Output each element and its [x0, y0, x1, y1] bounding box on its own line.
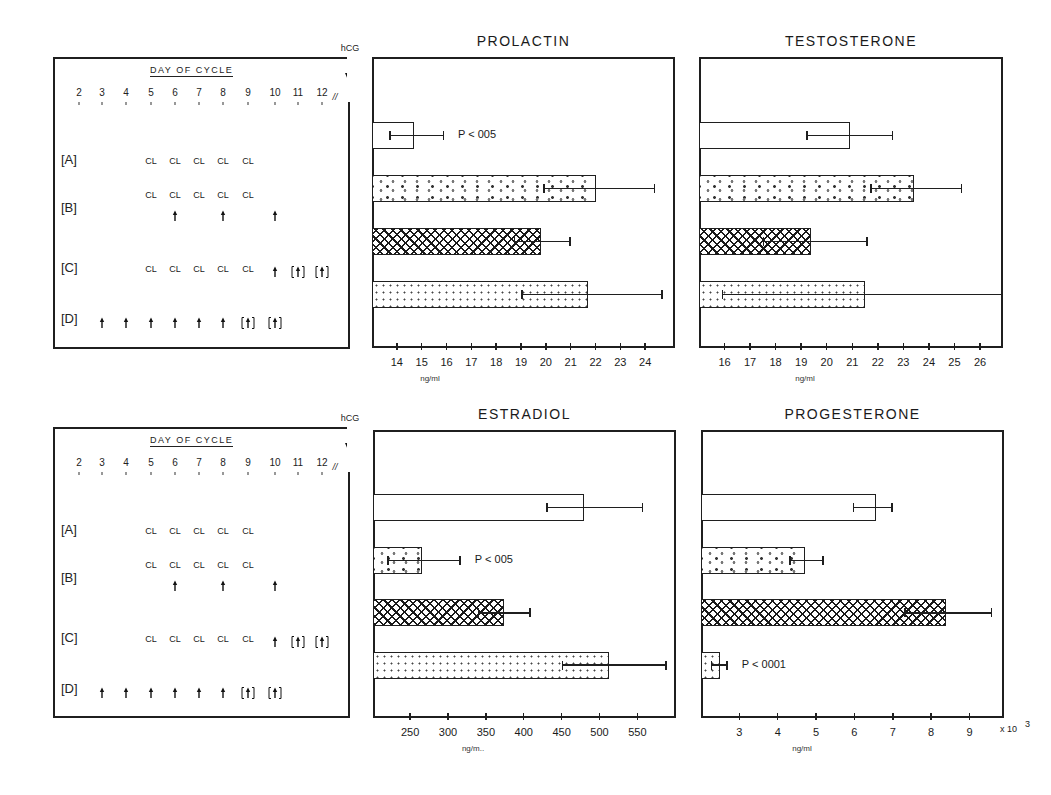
- injection-arrow-icon: [148, 315, 154, 327]
- cl-dose-marker: CL: [217, 526, 229, 536]
- testosterone-x-tick: [903, 343, 905, 350]
- progesterone-x-tick-label: 3: [736, 726, 742, 738]
- testosterone-x-tick: [979, 343, 981, 350]
- axis-break-mark: //: [332, 462, 337, 472]
- hcg-label: hCG: [341, 413, 360, 423]
- injection-arrow-icon: [99, 685, 105, 697]
- injection-arrow-icon: [272, 208, 278, 220]
- prolactin-x-tick-label: 14: [391, 356, 403, 368]
- estradiol-x-tick: [599, 713, 601, 720]
- progesterone-x-tick: [777, 713, 779, 720]
- group-label-d: [D]: [61, 311, 78, 326]
- day-tick-mark: [248, 472, 249, 475]
- injection-arrow-icon: [172, 315, 178, 327]
- cl-dose-marker: CL: [217, 156, 229, 166]
- testosterone-x-tick: [800, 343, 802, 350]
- progesterone-error-cap-high: [991, 608, 993, 617]
- injection-arrow-icon: [220, 208, 226, 220]
- day-tick-mark: [322, 102, 323, 105]
- injection-arrow-icon: [172, 208, 178, 220]
- estradiol-x-tick: [447, 713, 449, 720]
- injection-arrow-icon: [272, 578, 278, 590]
- prolactin-error-bar: [389, 135, 444, 137]
- day-tick-mark: [175, 472, 176, 475]
- injection-arrow-icon: [123, 315, 129, 327]
- prolactin-error-cap-high: [654, 184, 656, 193]
- group-label-c: [C]: [61, 260, 78, 275]
- prolactin-error-bar: [543, 188, 655, 190]
- testosterone-x-tick-label: 21: [846, 356, 858, 368]
- day-of-cycle-heading: DAY OF CYCLE: [150, 65, 233, 77]
- day-tick-mark: [199, 102, 200, 105]
- estradiol-error-bar: [478, 612, 531, 614]
- optional-injection-arrow-icon: [314, 264, 330, 276]
- day-of-cycle-heading: DAY OF CYCLE: [150, 435, 233, 447]
- schedule-panel-frame: [53, 57, 350, 349]
- axis-break-mark: //: [332, 92, 337, 102]
- optional-injection-arrow-icon: [314, 634, 330, 646]
- injection-arrow-icon: [148, 685, 154, 697]
- cl-dose-marker: CL: [169, 526, 181, 536]
- progesterone-error-cap-low: [789, 556, 791, 565]
- testosterone-x-tick-label: 23: [897, 356, 909, 368]
- prolactin-p-value-annotation: P < 005: [458, 128, 496, 140]
- optional-injection-arrow-icon: [290, 264, 306, 276]
- cl-dose-marker: CL: [193, 526, 205, 536]
- cl-dose-marker: CL: [169, 264, 181, 274]
- estradiol-x-tick-label: 450: [552, 726, 570, 738]
- estradiol-x-tick: [409, 713, 411, 720]
- day-tick-mark: [79, 472, 80, 475]
- prolactin-x-tick: [545, 343, 547, 350]
- injection-arrow-icon: [220, 315, 226, 327]
- cl-dose-marker: CL: [242, 634, 254, 644]
- progesterone-error-cap-high: [726, 661, 728, 670]
- testosterone-error-bar: [806, 135, 893, 137]
- prolactin-x-tick-label: 18: [490, 356, 502, 368]
- estradiol-x-tick-label: 550: [628, 726, 646, 738]
- day-number: 11: [293, 457, 303, 468]
- day-tick-mark: [151, 102, 152, 105]
- cl-dose-marker: CL: [193, 156, 205, 166]
- estradiol-x-tick: [561, 713, 563, 720]
- day-tick-mark: [102, 472, 103, 475]
- day-number: 8: [220, 87, 226, 98]
- day-tick-mark: [298, 472, 299, 475]
- day-tick-mark: [298, 102, 299, 105]
- progesterone-x-tick-label: 6: [851, 726, 857, 738]
- prolactin-x-tick: [471, 343, 473, 350]
- prolactin-error-bar: [514, 241, 571, 243]
- testosterone-x-tick-label: 16: [718, 356, 730, 368]
- cl-dose-marker: CL: [242, 156, 254, 166]
- day-number: 9: [245, 87, 251, 98]
- day-number: 3: [99, 457, 105, 468]
- day-number: 10: [269, 87, 280, 98]
- progesterone-x-tick-label: 8: [928, 726, 934, 738]
- estradiol-x-tick-label: 350: [477, 726, 495, 738]
- cl-dose-marker: CL: [145, 156, 157, 166]
- cl-dose-marker: CL: [217, 634, 229, 644]
- prolactin-error-cap-low: [389, 131, 391, 140]
- estradiol-x-tick: [637, 713, 639, 720]
- progesterone-error-cap-high: [822, 556, 824, 565]
- cl-dose-marker: CL: [217, 264, 229, 274]
- progesterone-x-multiplier-exponent: 3: [1025, 719, 1030, 729]
- day-tick-mark: [322, 472, 323, 475]
- day-tick-mark: [223, 472, 224, 475]
- cl-dose-marker: CL: [193, 634, 205, 644]
- estradiol-x-tick-label: 500: [590, 726, 608, 738]
- testosterone-x-tick-label: 17: [744, 356, 756, 368]
- day-number: 6: [172, 457, 178, 468]
- group-label-c: [C]: [61, 630, 78, 645]
- estradiol-x-tick: [485, 713, 487, 720]
- prolactin-x-axis-unit: ng/ml: [420, 374, 440, 383]
- testosterone-x-tick-label: 19: [795, 356, 807, 368]
- day-number: 6: [172, 87, 178, 98]
- prolactin-error-bar: [521, 294, 663, 296]
- testosterone-x-tick: [954, 343, 956, 350]
- prolactin-error-cap-high: [443, 131, 445, 140]
- progesterone-error-cap-low: [711, 661, 713, 670]
- estradiol-error-cap-high: [665, 661, 667, 670]
- prolactin-error-cap-high: [569, 237, 571, 246]
- testosterone-x-tick-label: 25: [948, 356, 960, 368]
- progesterone-error-cap-low: [904, 608, 906, 617]
